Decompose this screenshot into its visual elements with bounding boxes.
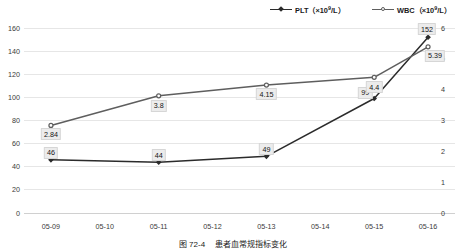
data-label-wbc: 4.4: [366, 81, 382, 93]
data-label-wbc: 5.39: [425, 50, 445, 62]
data-label-plt: 152: [418, 23, 436, 35]
data-label-wbc: 4.15: [256, 88, 276, 100]
data-label-wbc: 2.84: [41, 128, 61, 140]
data-point-wbc[interactable]: [49, 123, 53, 127]
data-label-plt: 44: [152, 149, 166, 161]
data-point-wbc[interactable]: [157, 94, 161, 98]
data-point-wbc[interactable]: [426, 45, 430, 49]
data-label-wbc: 3.8: [151, 100, 167, 112]
figure-caption-title: 患者血常规指标变化: [215, 240, 287, 249]
chart-figure: PLT（×109/L） WBC（×109/L） 0204060801001201…: [0, 0, 466, 250]
figure-caption: 图 72-4患者血常规指标变化: [0, 238, 466, 249]
data-point-wbc[interactable]: [372, 75, 376, 79]
data-label-plt: 49: [259, 143, 273, 155]
data-point-wbc[interactable]: [264, 83, 268, 87]
chart-series-layer: [0, 0, 466, 250]
series-line-plt: [51, 37, 428, 162]
data-label-plt: 46: [44, 147, 58, 159]
figure-caption-number: 图 72-4: [179, 240, 205, 249]
